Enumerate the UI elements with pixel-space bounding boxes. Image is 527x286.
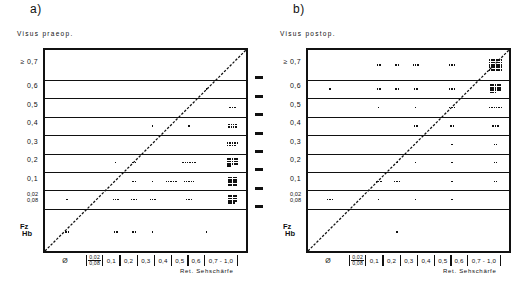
x-tick-label-empty-set: Ø (306, 255, 350, 266)
data-point (378, 107, 379, 108)
x-tick-label-numerator: 0,02 (89, 255, 100, 260)
data-point (191, 199, 192, 200)
data-point (235, 200, 237, 202)
row-separator-line (308, 98, 509, 99)
data-point-cluster (228, 177, 237, 186)
y-tick-label: ≥ 0,7 (8, 58, 38, 65)
data-point (189, 162, 190, 163)
data-point (378, 181, 379, 182)
data-point-cluster (396, 231, 397, 232)
data-point (229, 145, 230, 146)
y-tick-mark (255, 205, 263, 208)
y-tick-mark (255, 132, 263, 135)
x-tick-label: 0,1 (102, 255, 120, 266)
data-point (132, 162, 133, 163)
data-point-cluster (228, 195, 237, 204)
data-point-cluster (451, 144, 452, 145)
data-point (170, 181, 171, 182)
data-point (332, 199, 333, 200)
row-separator-line (308, 190, 509, 191)
data-point (414, 125, 415, 126)
data-point (489, 107, 490, 108)
data-point (235, 126, 236, 127)
data-point (394, 181, 395, 182)
data-point-cluster (228, 124, 237, 128)
data-point (229, 107, 230, 108)
data-point (329, 88, 330, 89)
data-point (227, 145, 228, 146)
y-tick-label: 0,6 (8, 82, 38, 89)
x-tick-label: 0,5 (434, 255, 451, 266)
row-separator-line (308, 172, 509, 173)
data-point-cluster (494, 181, 498, 182)
data-point (451, 107, 452, 108)
data-point (132, 231, 133, 232)
data-point-cluster (449, 64, 455, 65)
data-point (191, 181, 192, 182)
y-tick-label-stacked: 0,020,08 (6, 192, 38, 204)
y-tick-label: 0,4 (8, 119, 38, 126)
row-separator-line (45, 98, 246, 99)
row-separator-line (45, 80, 246, 81)
data-point (229, 142, 230, 143)
data-point (135, 162, 136, 163)
data-point (68, 231, 69, 232)
data-point (232, 145, 233, 146)
data-point (229, 165, 231, 167)
x-tick-label: 0,4 (417, 255, 435, 266)
data-point (188, 125, 189, 126)
data-point-cluster (451, 199, 452, 200)
data-point (228, 126, 229, 127)
data-point-cluster (414, 125, 418, 126)
data-point-cluster (150, 199, 156, 200)
data-point-cluster (415, 107, 416, 108)
data-point (454, 107, 455, 108)
panel-b: b) Visus postop. Ret. Sehschärfe ≥ 0,70,… (263, 0, 527, 286)
data-point-cluster (152, 181, 153, 182)
y-tick-mark (255, 150, 263, 153)
data-point (450, 125, 451, 126)
data-point (131, 199, 132, 200)
data-point (114, 231, 115, 232)
data-point-cluster (490, 84, 501, 93)
data-point (413, 64, 414, 65)
data-point-cluster (396, 162, 397, 163)
data-point (379, 88, 380, 89)
data-point (376, 181, 377, 182)
data-point-cluster (451, 181, 452, 182)
data-point (236, 163, 238, 165)
data-point (416, 125, 417, 126)
data-point-cluster (377, 64, 381, 65)
data-point (415, 64, 416, 65)
data-point-cluster (206, 88, 207, 89)
data-point-cluster (206, 231, 207, 232)
data-point (234, 107, 235, 108)
data-point-cluster (329, 88, 330, 89)
data-point (237, 142, 238, 143)
data-point (233, 202, 235, 204)
x-tick-label: 0,7 - 1,0 (204, 255, 239, 266)
data-point (377, 64, 378, 65)
data-point-cluster (229, 107, 235, 108)
x-axis-tick-row: Ø0,020,080,10,20,30,40,50,60,7 - 1,0 (306, 255, 511, 266)
data-point (206, 231, 207, 232)
data-point (116, 231, 117, 232)
data-point (132, 181, 133, 182)
data-point-cluster (451, 162, 452, 163)
x-tick-label-empty-set: Ø (43, 255, 87, 266)
data-point (228, 124, 229, 125)
y-tick-label-stacked: 0,020,08 (269, 192, 301, 204)
data-point (496, 162, 497, 163)
data-point-cluster (182, 162, 195, 163)
data-point (234, 145, 235, 146)
data-point (399, 181, 400, 182)
data-point (501, 69, 503, 71)
x-tick-label-fraction: 0,020,08 (86, 255, 103, 266)
data-point (188, 199, 189, 200)
y-tick-label-fzhb: FzHb (20, 223, 32, 238)
data-point (329, 199, 330, 200)
data-point-cluster (377, 88, 381, 89)
x-tick-label-fraction: 0,020,08 (349, 255, 366, 266)
y-tick-label: 0,4 (271, 119, 301, 126)
y-tick-label: 0,2 (8, 156, 38, 163)
